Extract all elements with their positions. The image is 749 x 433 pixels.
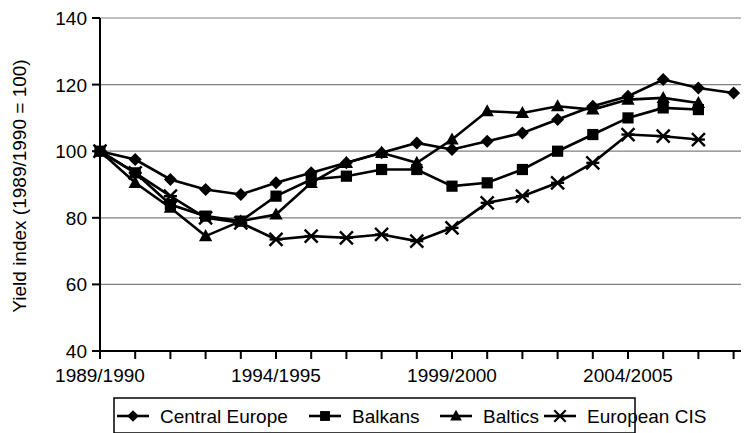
series-balkans [94, 102, 704, 226]
x-tick-label: 1989/1990 [55, 365, 145, 386]
marker-square [587, 129, 598, 140]
marker-cross [516, 190, 529, 203]
marker-triangle [551, 99, 564, 111]
marker-diamond [410, 136, 423, 149]
y-tick-label: 120 [55, 75, 87, 96]
series-baltics [93, 91, 705, 241]
x-tick-label: 1994/1995 [231, 365, 321, 386]
series-line [100, 135, 698, 242]
legend-item-balkans[interactable] [309, 411, 341, 421]
legend-label: Baltics [483, 406, 539, 427]
marker-cross [481, 196, 494, 209]
legend-label: Balkans [352, 406, 420, 427]
series-line [100, 98, 698, 236]
marker-cross [622, 128, 635, 141]
marker-square [270, 191, 281, 202]
x-axis-ticks [100, 351, 734, 359]
marker-diamond [199, 183, 212, 196]
marker-diamond [127, 410, 138, 421]
marker-square [341, 171, 352, 182]
legend-item-central-europe[interactable] [117, 410, 149, 421]
y-axis-ticks: 140120100806040 [55, 8, 100, 362]
y-tick-label: 100 [55, 141, 87, 162]
marker-diamond [551, 113, 564, 126]
marker-cross [305, 230, 318, 243]
y-tick-label: 80 [66, 208, 87, 229]
marker-square [622, 112, 633, 123]
yield-index-line-chart: Yield index (1989/1990 = 100) 1401201008… [0, 0, 749, 433]
marker-square [446, 181, 457, 192]
marker-diamond [164, 173, 177, 186]
marker-cross [586, 156, 599, 169]
marker-cross [375, 228, 388, 241]
y-axis-title-text: Yield index (1989/1990 = 100) [9, 59, 30, 312]
y-axis-title: Yield index (1989/1990 = 100) [9, 59, 30, 312]
marker-cross [410, 235, 423, 248]
series-central-europe [94, 73, 741, 201]
x-axis-tick-labels: 1989/19901994/19951999/20002004/2005 [55, 365, 673, 386]
marker-square [376, 164, 387, 175]
marker-diamond [481, 135, 494, 148]
marker-cross [554, 410, 565, 421]
y-tick-label: 140 [55, 8, 87, 29]
marker-cross [551, 176, 564, 189]
marker-cross [657, 130, 670, 143]
marker-square [552, 146, 563, 157]
legend-label: European CIS [587, 406, 706, 427]
series-european-cis [94, 128, 705, 248]
x-tick-label: 1999/2000 [407, 365, 497, 386]
marker-cross [340, 231, 353, 244]
marker-square [658, 102, 669, 113]
y-tick-label: 40 [66, 341, 87, 362]
marker-square [320, 411, 330, 421]
series-line [100, 108, 698, 221]
marker-cross [692, 133, 705, 146]
marker-square [482, 177, 493, 188]
marker-cross [446, 221, 459, 234]
marker-diamond [234, 188, 247, 201]
chart-legend: Central EuropeBalkansBalticsEuropean CIS [114, 398, 706, 433]
marker-diamond [270, 176, 283, 189]
marker-diamond [446, 143, 459, 156]
marker-diamond [692, 81, 705, 94]
marker-diamond [129, 153, 142, 166]
marker-square [517, 164, 528, 175]
marker-diamond [727, 86, 740, 99]
legend-item-european-cis[interactable] [544, 410, 576, 421]
y-tick-label: 60 [66, 274, 87, 295]
x-tick-label: 2004/2005 [583, 365, 673, 386]
marker-diamond [516, 126, 529, 139]
chart-container: Yield index (1989/1990 = 100) 1401201008… [0, 0, 749, 433]
data-series-layer [93, 73, 740, 248]
legend-label: Central Europe [160, 406, 288, 427]
legend-item-baltics[interactable] [440, 410, 472, 421]
marker-cross [270, 233, 283, 246]
